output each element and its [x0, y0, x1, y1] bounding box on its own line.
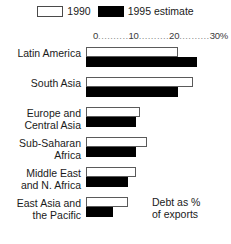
row-bars — [86, 166, 231, 192]
x-tick-30: 30% — [210, 30, 228, 41]
bar-1995 — [86, 147, 136, 157]
chart-row: Sub-SaharanAfrica — [0, 136, 231, 166]
row-label-line: and N. Africa — [0, 180, 81, 192]
row-label-south-asia: South Asia — [0, 76, 86, 90]
bar-1990 — [86, 137, 147, 147]
row-label-line: Latin America — [0, 48, 81, 60]
bar-1995 — [86, 117, 136, 127]
row-label-line: Africa — [0, 150, 81, 162]
row-label-europe-and-central-asia: Europe andCentral Asia — [0, 106, 86, 131]
axis-dots-1: .......... — [98, 30, 128, 41]
axis-dots-2: .......... — [139, 30, 169, 41]
row-label-line: Europe and — [0, 108, 81, 120]
legend-entry-1990: 1990 — [37, 6, 90, 17]
chart-row: South Asia — [0, 76, 231, 106]
row-label-line: Middle East — [0, 168, 81, 180]
legend-label-1995: 1995 estimate — [128, 6, 194, 17]
legend-label-1990: 1990 — [67, 6, 90, 17]
row-bars — [86, 136, 231, 162]
row-bars — [86, 46, 231, 72]
x-axis-tick-labels: 0..........10..........20..........30% — [93, 30, 213, 42]
bar-1995 — [86, 177, 128, 187]
bar-1995 — [86, 87, 178, 97]
row-bars — [86, 76, 231, 102]
bar-1990 — [86, 197, 128, 207]
legend-entry-1995: 1995 estimate — [98, 6, 194, 17]
row-label-line: East Asia and — [0, 198, 81, 210]
chart-row: Middle Eastand N. Africa — [0, 166, 231, 196]
legend-swatch-1995-icon — [98, 6, 124, 17]
row-label-east-asia-and-the-pacific: East Asia andthe Pacific — [0, 196, 86, 221]
annotation-line-2: of exports — [152, 208, 200, 220]
row-label-middle-east-and-n-africa: Middle Eastand N. Africa — [0, 166, 86, 191]
chart-legend: 1990 1995 estimate — [0, 6, 231, 17]
row-label-line: Central Asia — [0, 120, 81, 132]
axis-dots-3: .......... — [179, 30, 209, 41]
row-label-sub-saharan-africa: Sub-SaharanAfrica — [0, 136, 86, 161]
x-tick-10: 10 — [129, 30, 139, 41]
row-bars — [86, 106, 231, 132]
bar-1995 — [86, 57, 197, 67]
x-tick-20: 20 — [169, 30, 179, 41]
bar-1990 — [86, 167, 136, 177]
chart-annotation: Debt as %of exports — [152, 196, 200, 220]
row-label-line: South Asia — [0, 78, 81, 90]
bar-1995 — [86, 207, 113, 217]
row-label-line: Sub-Saharan — [0, 138, 81, 150]
chart-rows: Latin AmericaSouth AsiaEurope andCentral… — [0, 46, 231, 226]
bar-1990 — [86, 47, 178, 57]
bar-1990 — [86, 107, 140, 117]
bar-1990 — [86, 77, 193, 87]
chart-row: East Asia andthe PacificDebt as %of expo… — [0, 196, 231, 226]
row-label-latin-america: Latin America — [0, 46, 86, 60]
chart-row: Latin America — [0, 46, 231, 76]
debt-bar-chart: 1990 1995 estimate 0..........10........… — [0, 0, 231, 244]
row-label-line: the Pacific — [0, 210, 81, 222]
annotation-line-1: Debt as % — [152, 196, 200, 208]
chart-row: Europe andCentral Asia — [0, 106, 231, 136]
legend-swatch-1990-icon — [37, 6, 63, 17]
